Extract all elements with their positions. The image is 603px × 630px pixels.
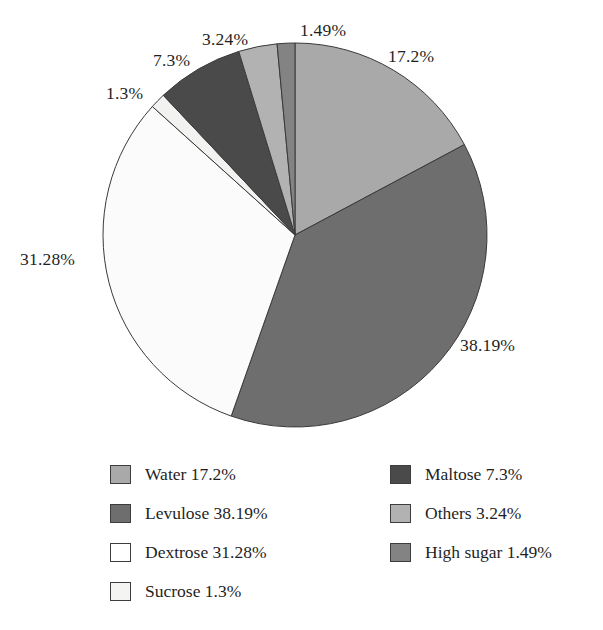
pie-plot-area: 1.49% 3.24% 7.3% 1.3% 31.28% 38.19% 17.2… (0, 0, 603, 450)
legend-swatch (390, 465, 411, 484)
pie-svg (0, 0, 603, 450)
legend-item[interactable]: Sucrose 1.3% (110, 572, 267, 611)
legend-swatch (110, 582, 131, 601)
legend-column-right: Maltose 7.3%Others 3.24%High sugar 1.49% (390, 455, 552, 572)
callout-levulose: 38.19% (460, 335, 515, 356)
legend-item-label: Water 17.2% (145, 464, 236, 485)
callout-others: 3.24% (202, 29, 248, 50)
legend-column-left: Water 17.2%Levulose 38.19%Dextrose 31.28… (110, 455, 267, 611)
legend-item[interactable]: Others 3.24% (390, 494, 552, 533)
legend-swatch (110, 465, 131, 484)
legend-swatch (110, 543, 131, 562)
legend-item[interactable]: Water 17.2% (110, 455, 267, 494)
legend-item[interactable]: Dextrose 31.28% (110, 533, 267, 572)
pie-chart-figure: 1.49% 3.24% 7.3% 1.3% 31.28% 38.19% 17.2… (0, 0, 603, 630)
legend-item-label: Others 3.24% (425, 503, 521, 524)
legend-swatch (390, 504, 411, 523)
legend: Water 17.2%Levulose 38.19%Dextrose 31.28… (0, 455, 603, 630)
legend-item-label: Sucrose 1.3% (145, 581, 241, 602)
pie-slice-group (103, 43, 487, 427)
legend-item-label: Levulose 38.19% (145, 503, 267, 524)
legend-item-label: Dextrose 31.28% (145, 542, 267, 563)
callout-dextrose: 31.28% (20, 249, 75, 270)
legend-item[interactable]: High sugar 1.49% (390, 533, 552, 572)
callout-sucrose: 1.3% (106, 83, 143, 104)
legend-swatch (110, 504, 131, 523)
legend-item-label: Maltose 7.3% (425, 464, 522, 485)
legend-item-label: High sugar 1.49% (425, 542, 552, 563)
legend-item[interactable]: Maltose 7.3% (390, 455, 552, 494)
callout-high-sugar: 1.49% (300, 20, 346, 41)
legend-swatch (390, 543, 411, 562)
legend-item[interactable]: Levulose 38.19% (110, 494, 267, 533)
callout-water: 17.2% (388, 46, 434, 67)
callout-maltose: 7.3% (153, 50, 190, 71)
